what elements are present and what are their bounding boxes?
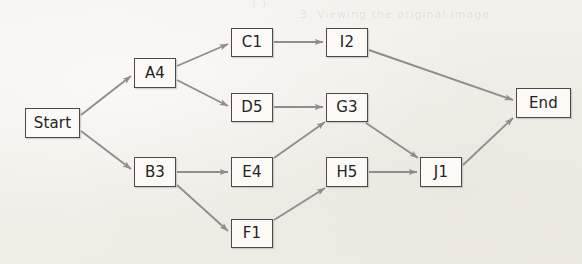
node-end[interactable]: End: [516, 88, 571, 118]
edge-start-to-a4: [81, 76, 131, 115]
node-g3[interactable]: G3: [326, 93, 368, 122]
edge-a4-to-c1: [177, 44, 228, 66]
node-label: E4: [242, 165, 261, 180]
node-d5[interactable]: D5: [231, 93, 273, 122]
diagram-canvas: StartA4B3C1D5E4F1I2G3H5J1End ( )3. Viewi…: [0, 0, 582, 264]
node-label: C1: [242, 35, 262, 50]
edge-g3-to-j1: [366, 123, 418, 158]
node-h5[interactable]: H5: [326, 157, 368, 187]
bleed-through-text-0: ( ): [252, 0, 267, 10]
node-e4[interactable]: E4: [231, 157, 273, 187]
node-a4[interactable]: A4: [134, 58, 176, 88]
node-label: B3: [145, 165, 165, 180]
node-start[interactable]: Start: [25, 108, 80, 138]
node-label: End: [529, 96, 558, 111]
edge-b3-to-f1: [177, 185, 228, 231]
node-c1[interactable]: C1: [231, 28, 273, 57]
bleed-through-text-1: 3. Viewing the original image: [300, 8, 490, 21]
edge-e4-to-g3: [274, 122, 325, 158]
edge-i2-to-end: [369, 50, 513, 100]
edge-a4-to-d5: [177, 80, 228, 106]
node-label: Start: [34, 116, 72, 131]
node-label: G3: [336, 100, 358, 115]
node-label: I2: [340, 35, 354, 50]
node-label: F1: [243, 226, 262, 241]
node-j1[interactable]: J1: [420, 157, 462, 187]
edge-f1-to-h5: [274, 188, 325, 220]
edge-layer: [0, 0, 582, 264]
node-label: D5: [241, 100, 263, 115]
edge-j1-to-end: [463, 118, 513, 165]
node-label: A4: [145, 66, 165, 81]
node-i2[interactable]: I2: [326, 28, 368, 57]
node-b3[interactable]: B3: [134, 157, 176, 187]
node-f1[interactable]: F1: [231, 219, 273, 248]
node-label: H5: [336, 165, 357, 180]
edge-start-to-b3: [81, 131, 131, 169]
node-label: J1: [434, 165, 448, 180]
